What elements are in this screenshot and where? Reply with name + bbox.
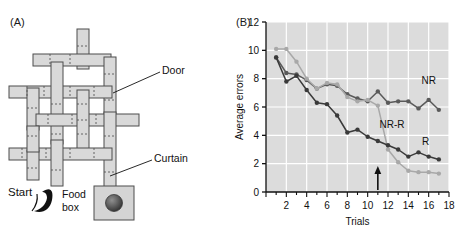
data-point — [294, 74, 298, 78]
data-point — [284, 71, 288, 75]
maze-label-foodbox-line2: box — [62, 201, 79, 213]
data-point — [335, 82, 339, 86]
y-tick-label: 2 — [253, 158, 259, 169]
maze-corridors — [9, 29, 139, 188]
x-tick-label: 2 — [284, 200, 290, 211]
data-point — [376, 103, 380, 107]
start-arrow-icon — [32, 189, 53, 212]
maze-diagram — [0, 0, 232, 238]
panel-a-maze: (A) — [0, 0, 232, 238]
x-tick-label: 16 — [423, 200, 435, 211]
data-point — [315, 86, 319, 90]
data-point — [386, 101, 390, 105]
data-point — [315, 101, 319, 105]
x-tick-label: 12 — [382, 200, 394, 211]
data-point — [376, 89, 380, 93]
data-point — [355, 99, 359, 103]
data-point — [284, 79, 288, 83]
y-tick-label: 8 — [253, 73, 259, 84]
y-tick-label: 6 — [253, 102, 259, 113]
series-label-nr-r: NR-R — [380, 119, 405, 130]
x-tick-label: 10 — [362, 200, 374, 211]
data-point — [284, 47, 288, 51]
data-point — [426, 154, 430, 158]
data-point — [396, 99, 400, 103]
y-tick-label: 12 — [248, 17, 260, 28]
x-tick-label: 6 — [324, 200, 330, 211]
data-point — [304, 76, 308, 80]
door-leader-line — [113, 72, 160, 93]
data-point — [274, 47, 278, 51]
data-point — [416, 106, 420, 110]
data-point — [426, 170, 430, 174]
data-point — [416, 170, 420, 174]
data-point — [365, 135, 369, 139]
data-point — [294, 59, 298, 63]
maze-label-curtain: Curtain — [154, 152, 188, 164]
data-point — [335, 113, 339, 117]
x-tick-label: 18 — [443, 200, 455, 211]
series-label-nr: NR — [421, 75, 435, 86]
data-point — [325, 102, 329, 106]
data-point — [365, 98, 369, 102]
x-tick-label: 8 — [345, 200, 351, 211]
maze-label-foodbox-line1: Food — [62, 188, 86, 200]
maze-label-door: Door — [162, 64, 185, 76]
data-point — [437, 171, 441, 175]
y-axis-title: Average errors — [234, 74, 245, 140]
data-point — [406, 154, 410, 158]
panel-b-chart: (B) 02468101224681012141618TrialsAverage… — [232, 0, 463, 238]
data-point — [406, 99, 410, 103]
food-pellet-icon — [106, 195, 123, 212]
x-tick-label: 14 — [403, 200, 415, 211]
data-point — [396, 160, 400, 164]
data-point — [376, 139, 380, 143]
data-point — [386, 143, 390, 147]
data-point — [345, 95, 349, 99]
data-point — [345, 130, 349, 134]
data-point — [304, 88, 308, 92]
data-point — [437, 157, 441, 161]
x-tick-label: 4 — [304, 200, 310, 211]
data-point — [426, 98, 430, 102]
average-errors-line-chart: 02468101224681012141618TrialsAverage err… — [232, 0, 463, 238]
data-point — [437, 108, 441, 112]
data-point — [416, 150, 420, 154]
x-axis-title: Trials — [345, 216, 369, 227]
data-point — [325, 81, 329, 85]
data-point — [406, 169, 410, 173]
data-point — [396, 147, 400, 151]
maze-label-start: Start — [8, 186, 32, 198]
series-label-r: R — [422, 136, 429, 147]
y-tick-label: 10 — [248, 45, 260, 56]
data-point — [274, 55, 278, 59]
y-tick-label: 4 — [253, 130, 259, 141]
data-point — [386, 147, 390, 151]
data-point — [355, 127, 359, 131]
y-tick-label: 0 — [253, 187, 259, 198]
